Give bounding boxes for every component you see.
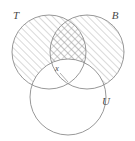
venn-diagram-figure: T B U x (0, 0, 135, 141)
point-label-x: x (54, 63, 59, 73)
set-label-B: B (112, 9, 119, 21)
venn-diagram-canvas: T B U x (0, 0, 135, 141)
set-label-U: U (102, 95, 111, 107)
set-label-T: T (13, 9, 20, 21)
